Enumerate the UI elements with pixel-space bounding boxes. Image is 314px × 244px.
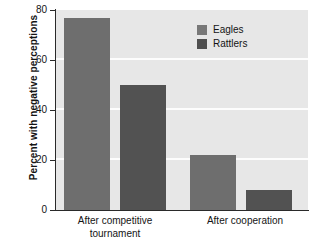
x-axis-label-line1: After cooperation — [180, 215, 310, 228]
bar-chart: Percent with negative perceptions 80 60 … — [0, 0, 314, 244]
y-tick-label-20: 20 — [22, 154, 47, 165]
y-tick-label-80: 80 — [22, 4, 47, 15]
legend-item-eagles: Eagles — [197, 23, 247, 36]
bar-rattlers-after-competitive-tournament — [120, 85, 166, 210]
bar-rattlers-after-cooperation — [246, 190, 292, 210]
bar-eagles-after-competitive-tournament — [64, 18, 110, 211]
legend-label-eagles: Eagles — [213, 24, 244, 35]
y-tick-label-60: 60 — [22, 54, 47, 65]
legend-swatch-icon-rattlers — [197, 39, 207, 49]
legend: Eagles Rattlers — [197, 23, 247, 51]
y-tick-mark-0 — [50, 210, 55, 211]
y-tick-label-40: 40 — [22, 104, 47, 115]
legend-swatch-icon-eagles — [197, 25, 207, 35]
plot-area — [56, 10, 308, 210]
y-tick-mark-60 — [50, 60, 55, 61]
y-tick-label-0: 0 — [22, 204, 47, 215]
y-tick-mark-80 — [50, 10, 55, 11]
y-axis-line — [55, 9, 56, 211]
y-tick-mark-20 — [50, 160, 55, 161]
bar-eagles-after-cooperation — [190, 155, 236, 210]
x-axis-label-line1: After competitive — [50, 215, 180, 228]
x-axis-line — [55, 210, 309, 211]
x-axis-label-after-competitive-tournament: After competitive tournament — [50, 215, 180, 240]
legend-item-rattlers: Rattlers — [197, 37, 247, 50]
x-axis-label-line2: tournament — [50, 228, 180, 241]
x-axis-label-after-cooperation: After cooperation — [180, 215, 310, 228]
y-tick-mark-40 — [50, 110, 55, 111]
legend-label-rattlers: Rattlers — [213, 38, 247, 49]
